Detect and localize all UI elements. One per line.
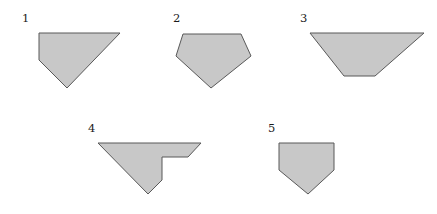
figure-canvas: 1 2 3 4 5 bbox=[0, 0, 437, 214]
shape-3-label: 3 bbox=[300, 11, 307, 25]
shape-group-3: 3 bbox=[300, 11, 424, 76]
shape-group-2: 2 bbox=[173, 11, 251, 88]
shape-5-home-plate-pentagon bbox=[279, 143, 334, 194]
shapes-figure: 1 2 3 4 5 bbox=[0, 0, 437, 214]
shape-5-label: 5 bbox=[268, 121, 275, 135]
shape-2-pentagon bbox=[176, 34, 251, 88]
shape-4-label: 4 bbox=[88, 121, 95, 135]
shape-1-label: 1 bbox=[22, 11, 29, 25]
shape-group-4: 4 bbox=[88, 121, 201, 194]
shape-4-concave-polygon bbox=[98, 143, 201, 194]
shape-2-label: 2 bbox=[173, 11, 180, 25]
shape-1-quadrilateral bbox=[39, 33, 120, 88]
shape-group-1: 1 bbox=[22, 11, 120, 88]
shape-group-5: 5 bbox=[268, 121, 334, 194]
shape-3-trapezoid bbox=[310, 33, 424, 76]
